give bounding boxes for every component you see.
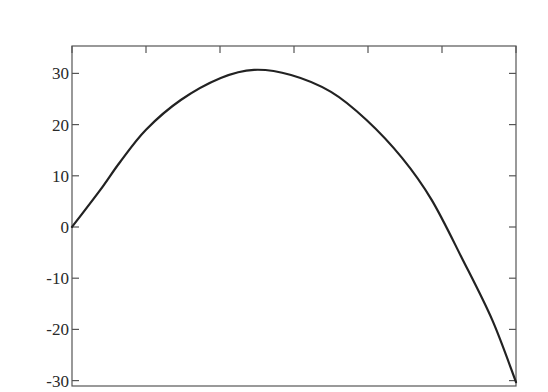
y-tick-label: -20 bbox=[46, 320, 69, 339]
y-ticks bbox=[72, 73, 516, 380]
chart: 3020100-10-20-30 bbox=[0, 0, 548, 392]
plot-frame bbox=[72, 46, 516, 386]
y-tick-label: 10 bbox=[52, 167, 69, 186]
y-tick-label: -10 bbox=[46, 269, 69, 288]
y-tick-label: 0 bbox=[61, 218, 70, 237]
y-tick-labels: 3020100-10-20-30 bbox=[46, 64, 69, 390]
x-ticks bbox=[72, 46, 516, 53]
y-tick-label: 30 bbox=[52, 64, 69, 83]
y-tick-label: -30 bbox=[46, 372, 69, 391]
y-tick-label: 20 bbox=[52, 116, 69, 135]
data-curve bbox=[72, 70, 516, 382]
